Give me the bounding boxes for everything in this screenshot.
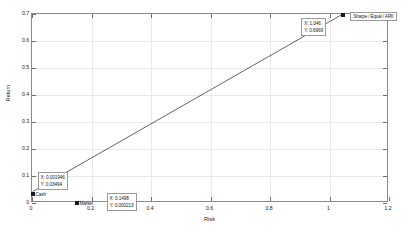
y-axis-tick-label: 0.6 [22, 37, 29, 43]
series-line-sharpe-equal-ark [33, 15, 342, 192]
x-axis-tick-label: 0.6 [206, 205, 213, 211]
datatip-y-value: Y: 0.6969 [304, 27, 323, 34]
datatip-x-value: X: 1.046 [304, 20, 323, 27]
y-axis-tick-label: 0.7 [22, 10, 29, 16]
x-axis-tick-label: 0.2 [87, 205, 94, 211]
datatip[interactable]: X: 0.001946Y: 0.03494 [38, 172, 68, 190]
x-axis-tick-label: 0.4 [147, 205, 154, 211]
datatip-x-value: X: 0.001946 [41, 174, 65, 181]
y-axis-tick-label: 0 [26, 199, 29, 205]
y-axis-tick [32, 203, 36, 204]
y-axis-tick-label: 0.2 [22, 145, 29, 151]
x-axis-title: Risk [31, 216, 388, 222]
figure-canvas: CashMarket X: 0.001946Y: 0.03494X: 0.149… [0, 0, 411, 236]
legend-entry-sharpe-equal-ark[interactable]: Sharpe / Equal / ARK [350, 12, 397, 21]
datatip[interactable]: X: 1.046Y: 0.6969 [301, 18, 326, 36]
x-axis-tick-label: 1 [327, 205, 330, 211]
y-axis-tick-label: 0.5 [22, 64, 29, 70]
y-axis-tick-label: 0.1 [22, 172, 29, 178]
data-point-label: Cash [36, 191, 46, 196]
data-line-layer [32, 14, 387, 201]
datatip-x-value: X: 0.1498 [110, 195, 134, 202]
x-axis-tick-labels: 00.20.40.60.811.2 [31, 205, 388, 215]
data-point-marker[interactable] [31, 192, 35, 196]
y-axis-tick-label: 0.4 [22, 91, 29, 97]
x-axis-tick-label: 0.8 [266, 205, 273, 211]
data-point-marker[interactable] [341, 13, 345, 17]
y-axis-tick-label: 0.3 [22, 118, 29, 124]
x-axis-tick [389, 197, 390, 201]
y-axis-title: Return [5, 68, 11, 118]
x-axis-tick-label: 0 [30, 205, 33, 211]
x-axis-tick-label: 1.2 [385, 205, 392, 211]
y-axis-tick [383, 203, 387, 204]
plot-area[interactable]: CashMarket X: 0.001946Y: 0.03494X: 0.149… [31, 13, 388, 202]
y-axis-tick-labels: 00.10.20.30.40.50.60.7 [13, 13, 29, 202]
datatip-y-value: Y: 0.03494 [41, 181, 65, 188]
